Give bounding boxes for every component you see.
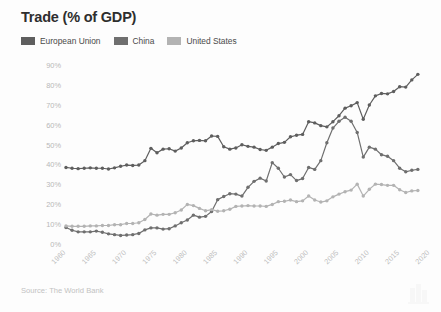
data-point <box>307 194 310 197</box>
x-axis-labels: 1960196519701975198019851990199520002005… <box>49 248 431 266</box>
data-point <box>137 232 140 235</box>
data-point <box>398 167 401 170</box>
data-point <box>331 126 334 129</box>
y-axis-tick-label: 70% <box>46 101 61 110</box>
data-point <box>271 145 274 148</box>
series-china <box>64 116 419 238</box>
data-point <box>131 222 134 225</box>
data-point <box>240 204 243 207</box>
data-point <box>113 223 116 226</box>
data-point <box>386 92 389 95</box>
data-point <box>283 200 286 203</box>
data-point <box>337 192 340 195</box>
data-point <box>252 204 255 207</box>
x-axis-tick-label: 1985 <box>201 248 219 266</box>
data-point <box>392 184 395 187</box>
data-point <box>83 230 86 233</box>
data-point <box>186 218 189 221</box>
data-point <box>356 131 359 134</box>
data-point <box>301 133 304 136</box>
data-point <box>374 147 377 150</box>
data-point <box>410 169 413 172</box>
data-point <box>198 207 201 210</box>
data-point <box>404 191 407 194</box>
data-point <box>349 188 352 191</box>
data-point <box>161 227 164 230</box>
data-point <box>289 198 292 201</box>
data-point <box>246 186 249 189</box>
data-point <box>240 143 243 146</box>
watermark-icon <box>404 280 432 306</box>
data-point <box>70 167 73 170</box>
y-axis-tick-label: 50% <box>46 141 61 150</box>
data-point <box>204 139 207 142</box>
data-point <box>167 147 170 150</box>
data-point <box>283 175 286 178</box>
data-point <box>125 222 128 225</box>
data-point <box>101 167 104 170</box>
data-point <box>368 103 371 106</box>
data-point <box>186 203 189 206</box>
y-axis-tick-label: 80% <box>46 81 61 90</box>
data-point <box>228 147 231 150</box>
data-point <box>186 141 189 144</box>
data-point <box>289 173 292 176</box>
data-point <box>149 212 152 215</box>
data-point <box>343 116 346 119</box>
x-axis-tick-label: 1980 <box>171 248 189 266</box>
data-point <box>349 120 352 123</box>
data-point <box>337 114 340 117</box>
data-point <box>386 155 389 158</box>
data-point <box>101 224 104 227</box>
x-axis-tick-label: 2005 <box>322 248 340 266</box>
line-chart-plot: 0%10%20%30%40%50%60%70%80%90% 1960196519… <box>0 0 441 312</box>
data-point <box>137 163 140 166</box>
data-point <box>343 190 346 193</box>
data-point <box>89 166 92 169</box>
data-point <box>222 209 225 212</box>
data-point <box>143 228 146 231</box>
x-axis-tick-label: 1965 <box>80 248 98 266</box>
data-point <box>240 194 243 197</box>
data-point <box>180 208 183 211</box>
data-point <box>258 148 261 151</box>
data-point <box>331 195 334 198</box>
series-united-states <box>64 182 419 228</box>
data-point <box>216 209 219 212</box>
data-point <box>313 168 316 171</box>
data-point <box>113 233 116 236</box>
y-axis-labels: 0%10%20%30%40%50%60%70%80%90% <box>46 61 61 249</box>
data-point <box>119 165 122 168</box>
data-point <box>204 215 207 218</box>
data-point <box>222 145 225 148</box>
y-axis-tick-label: 90% <box>46 61 61 70</box>
data-point <box>331 120 334 123</box>
data-point <box>155 151 158 154</box>
data-point <box>313 198 316 201</box>
data-point <box>325 199 328 202</box>
x-axis-tick-label: 1990 <box>231 248 249 266</box>
data-point <box>192 204 195 207</box>
data-point <box>216 198 219 201</box>
series-line <box>66 117 418 235</box>
data-point <box>83 167 86 170</box>
data-point <box>180 221 183 224</box>
data-point <box>210 208 213 211</box>
data-point <box>271 161 274 164</box>
data-point <box>325 141 328 144</box>
data-point <box>125 163 128 166</box>
data-point <box>416 73 419 76</box>
data-point <box>95 229 98 232</box>
x-axis-tick-label: 1960 <box>49 248 67 266</box>
data-point <box>392 159 395 162</box>
data-point <box>356 182 359 185</box>
data-point <box>161 147 164 150</box>
data-point <box>174 211 177 214</box>
data-point <box>125 233 128 236</box>
data-point <box>192 139 195 142</box>
data-point <box>362 118 365 121</box>
data-point <box>64 224 67 227</box>
data-point <box>301 177 304 180</box>
data-point <box>410 189 413 192</box>
data-point <box>295 179 298 182</box>
